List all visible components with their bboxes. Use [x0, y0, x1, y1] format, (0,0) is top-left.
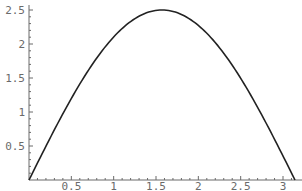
y-tick-label: 1: [18, 106, 25, 119]
x-tick-label: 1: [110, 180, 117, 191]
x-tick-label: 1.5: [146, 180, 166, 191]
x-tick-label: 2: [195, 180, 202, 191]
y-tick-label: 2: [18, 38, 25, 51]
line-chart: 0.511.522.53 0.511.522.5: [0, 0, 302, 191]
y-tick-label: 2.5: [5, 4, 25, 17]
x-ticks: 0.511.522.53: [37, 176, 291, 191]
x-tick-label: 2.5: [231, 180, 251, 191]
x-tick-label: 0.5: [61, 180, 81, 191]
y-tick-label: 0.5: [5, 140, 25, 153]
axes: [29, 5, 302, 180]
y-tick-label: 1.5: [5, 72, 25, 85]
x-tick-label: 3: [280, 180, 287, 191]
data-series-line: [29, 10, 295, 180]
